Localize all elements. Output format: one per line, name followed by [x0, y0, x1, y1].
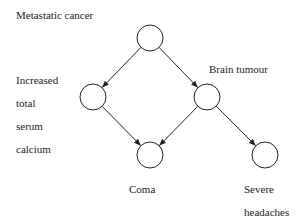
- node-tumour: [194, 84, 220, 110]
- edge-tumour-to-headaches: [216, 106, 256, 146]
- edge-metastatic-to-tumour: [159, 47, 198, 87]
- node-calcium: [80, 84, 106, 110]
- bayesian-network-diagram: Metastatic cancer Increased total serum …: [0, 0, 298, 218]
- edge-tumour-to-coma: [159, 106, 198, 145]
- node-coma: [137, 142, 163, 168]
- label-brain-tumour: Brain tumour: [209, 58, 268, 81]
- label-metastatic-cancer: Metastatic cancer: [16, 4, 93, 27]
- edge-calcium-to-coma: [102, 106, 141, 145]
- node-headaches: [252, 142, 278, 168]
- label-increased-total-serum-calcium: Increased total serum calcium: [16, 69, 58, 161]
- label-coma: Coma: [129, 178, 155, 201]
- edge-metastatic-to-calcium: [102, 47, 141, 87]
- node-metastatic: [137, 25, 163, 51]
- label-severe-headaches: Severe headaches: [244, 178, 289, 218]
